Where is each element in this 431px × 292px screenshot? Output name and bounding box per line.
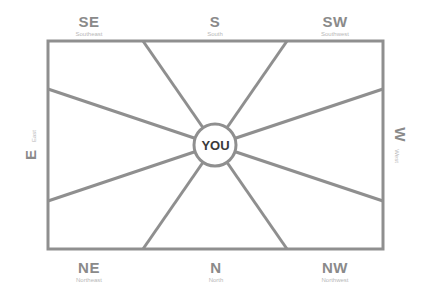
label-abbr: S bbox=[175, 14, 255, 30]
label-full: Southwest bbox=[295, 30, 375, 38]
label-full: West bbox=[394, 149, 400, 163]
label-abbr: E bbox=[22, 149, 39, 160]
label-abbr: W bbox=[392, 127, 409, 142]
label-abbr: SW bbox=[295, 14, 375, 30]
ray-e-upper bbox=[48, 89, 215, 145]
label-southwest: SW Southwest bbox=[295, 14, 375, 38]
label-full: South bbox=[175, 30, 255, 38]
label-abbr: N bbox=[176, 260, 256, 276]
label-abbr: NW bbox=[295, 260, 375, 276]
label-full: North bbox=[176, 276, 256, 284]
label-southeast: SE Southeast bbox=[49, 14, 129, 38]
ray-w-upper bbox=[215, 89, 383, 145]
label-northeast: NE Northeast bbox=[49, 260, 129, 284]
label-abbr: NE bbox=[49, 260, 129, 276]
label-full: Southeast bbox=[49, 30, 129, 38]
label-north: N North bbox=[176, 260, 256, 284]
label-full: East bbox=[31, 130, 37, 142]
label-full: Northwest bbox=[295, 276, 375, 284]
center-label: YOU bbox=[194, 124, 237, 167]
ray-e-lower bbox=[48, 145, 215, 201]
label-abbr: SE bbox=[49, 14, 129, 30]
label-south: S South bbox=[175, 14, 255, 38]
label-east: E East bbox=[22, 115, 42, 175]
ray-w-lower bbox=[215, 145, 383, 201]
label-full: Northeast bbox=[49, 276, 129, 284]
label-west: W West bbox=[389, 115, 409, 175]
label-northwest: NW Northwest bbox=[295, 260, 375, 284]
